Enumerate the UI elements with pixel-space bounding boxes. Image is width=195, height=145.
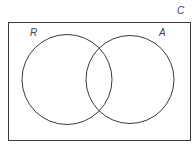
set-a-circle bbox=[86, 36, 174, 124]
universe-rectangle bbox=[9, 23, 191, 141]
venn-diagram: C R A bbox=[0, 0, 195, 145]
set-r-circle bbox=[22, 35, 112, 125]
set-r-label: R bbox=[30, 27, 37, 38]
set-a-label: A bbox=[158, 27, 166, 38]
universe-label: C bbox=[177, 5, 185, 16]
